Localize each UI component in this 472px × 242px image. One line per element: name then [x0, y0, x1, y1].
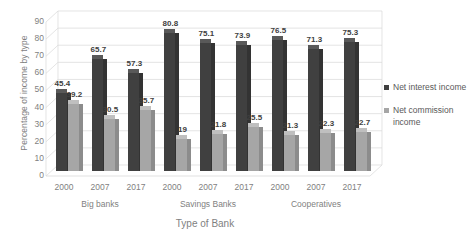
- y-axis-tick: 80: [22, 34, 44, 44]
- bar-front-face: [128, 73, 139, 171]
- bar-chart: Percentage of income by type 01020304050…: [0, 0, 472, 242]
- bar-value-label: 21.3: [279, 122, 302, 130]
- bar: [68, 104, 79, 171]
- bar-value-label: 39.2: [63, 91, 86, 99]
- bar: [104, 119, 115, 171]
- x-axis-group-label: Cooperatives: [266, 199, 366, 209]
- bar-top-face: [104, 115, 115, 119]
- bar-top-face: [140, 106, 151, 110]
- bar-top-face: [92, 55, 103, 59]
- bar-side-face: [295, 135, 299, 171]
- x-axis-tick-label: 2000: [44, 182, 84, 192]
- bar-front-face: [308, 49, 319, 171]
- y-axis-tick-label: 80: [22, 34, 44, 43]
- bar: [272, 40, 283, 171]
- bar-front-face: [344, 42, 355, 171]
- bar-value-label: 21.8: [207, 121, 230, 129]
- x-axis-title: Type of Bank: [40, 218, 370, 229]
- bar-top-face: [236, 41, 247, 45]
- x-axis-tick-label: 2007: [80, 182, 120, 192]
- bar-top-face: [248, 123, 259, 127]
- x-axis-tick-label: 2007: [188, 182, 228, 192]
- y-axis-tick: 50: [22, 85, 44, 95]
- y-axis-tick: 60: [22, 68, 44, 78]
- legend-item[interactable]: Net interest income: [384, 82, 470, 93]
- bar-top-face: [212, 130, 223, 134]
- bar-top-face: [164, 29, 175, 33]
- bar-front-face: [284, 135, 295, 171]
- bar: [212, 134, 223, 171]
- bar: [92, 59, 103, 171]
- y-axis-tick-label: 0: [22, 171, 44, 180]
- bar-front-face: [356, 132, 367, 171]
- bar-side-face: [367, 132, 371, 171]
- y-axis-tick-label: 30: [22, 120, 44, 129]
- bar-top-face: [284, 131, 295, 135]
- bar-side-face: [259, 127, 263, 171]
- x-axis-group-label: Savings Banks: [158, 199, 258, 209]
- y-axis-tick: 30: [22, 120, 44, 130]
- bar-side-face: [223, 134, 227, 171]
- bar-side-face: [79, 104, 83, 171]
- bar: [344, 42, 355, 171]
- bar-top-face: [344, 38, 355, 42]
- bar-top-face: [176, 135, 187, 139]
- chart-legend: Net interest incomeNet commission income: [384, 82, 470, 140]
- y-axis-tick: 90: [22, 17, 44, 27]
- bar-side-face: [115, 119, 119, 171]
- legend-item-label: Net commission income: [393, 105, 470, 128]
- bar-front-face: [248, 127, 259, 171]
- bar: [248, 127, 259, 171]
- bar: [284, 135, 295, 171]
- bar-front-face: [320, 133, 331, 171]
- bar-side-face: [187, 139, 191, 172]
- bar: [164, 33, 175, 171]
- bar-front-face: [92, 59, 103, 171]
- bar-value-label: 22.7: [351, 119, 374, 127]
- bar: [236, 45, 247, 171]
- bar-front-face: [104, 119, 115, 171]
- bar-top-face: [356, 128, 367, 132]
- bar-side-face: [331, 133, 335, 171]
- y-axis-tick-label: 20: [22, 137, 44, 146]
- bar-value-label: 19: [171, 126, 194, 134]
- bar-side-face: [151, 110, 155, 171]
- y-axis-tick: 40: [22, 103, 44, 113]
- bar-top-face: [68, 100, 79, 104]
- bar-value-label: 71.3: [303, 36, 326, 44]
- bar: [128, 73, 139, 171]
- x-axis-tick-label: 2017: [116, 182, 156, 192]
- x-axis-tick-label: 2000: [260, 182, 300, 192]
- bar: [140, 110, 151, 171]
- bar-front-face: [68, 104, 79, 171]
- x-axis-tick-label: 2007: [296, 182, 336, 192]
- bar: [320, 133, 331, 171]
- y-axis-tick-label: 90: [22, 17, 44, 26]
- x-axis-tick-label: 2017: [224, 182, 264, 192]
- bar-front-face: [164, 33, 175, 171]
- bar-top-face: [200, 39, 211, 43]
- bar-top-face: [272, 36, 283, 40]
- bar-front-face: [212, 134, 223, 171]
- y-axis-tick-label: 60: [22, 68, 44, 77]
- y-axis-tick: 10: [22, 154, 44, 164]
- bar-front-face: [176, 139, 187, 172]
- bar-value-label: 65.7: [87, 46, 110, 54]
- y-axis-tick: 20: [22, 137, 44, 147]
- x-axis-tick-label: 2000: [152, 182, 192, 192]
- x-axis-tick-label: 2017: [332, 182, 372, 192]
- bar-front-face: [140, 110, 151, 171]
- bar-front-face: [236, 45, 247, 171]
- bar-value-label: 75.3: [339, 29, 362, 37]
- bar-value-label: 75.1: [195, 30, 218, 38]
- bar-value-label: 73.9: [231, 32, 254, 40]
- legend-item[interactable]: Net commission income: [384, 105, 470, 128]
- legend-item-label: Net interest income: [393, 82, 466, 93]
- y-axis-tick-label: 70: [22, 51, 44, 60]
- bar-front-face: [200, 43, 211, 172]
- y-axis-tick: 0: [22, 171, 44, 181]
- legend-swatch-icon: [384, 108, 389, 113]
- bar-value-label: 30.5: [99, 106, 122, 114]
- bar-value-label: 76.5: [267, 27, 290, 35]
- bar-value-label: 45.4: [51, 80, 74, 88]
